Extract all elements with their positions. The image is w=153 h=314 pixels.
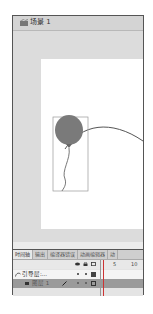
flash-document-window: 场景 1 时间轴 输出 编译器错误 动画编辑器 动	[12, 15, 144, 295]
tab-compiler-errors[interactable]: 编译器错误	[48, 250, 78, 259]
timeline-header: 5 10	[13, 260, 143, 269]
timeline-tabs: 时间轴 输出 编译器错误 动画编辑器 动	[13, 250, 143, 260]
layer-row-normal[interactable]: 图层 1	[13, 279, 143, 288]
lock-dot[interactable]	[85, 273, 87, 275]
tab-output[interactable]: 输出	[33, 250, 48, 259]
tab-timeline[interactable]: 时间轴	[13, 250, 33, 259]
pasteboard[interactable]	[13, 31, 143, 242]
balloon-shape	[55, 115, 83, 145]
lock-dot[interactable]	[85, 282, 87, 284]
visibility-dot[interactable]	[77, 282, 79, 284]
layer-row-guide[interactable]: 引导层:...	[13, 270, 143, 279]
eye-icon[interactable]	[75, 262, 80, 266]
guide-layer-icon	[15, 272, 21, 277]
tab-motion-editor[interactable]: 动画编辑器	[78, 250, 108, 259]
layer-name[interactable]: 图层 1	[32, 280, 49, 287]
layer-name[interactable]: 引导层:...	[22, 271, 47, 278]
pencil-icon	[62, 281, 67, 286]
balloon-string	[62, 148, 69, 191]
visibility-dot[interactable]	[77, 273, 79, 275]
stage-artwork	[41, 59, 143, 229]
layer-icon	[25, 281, 30, 286]
frame-number-5: 5	[113, 261, 116, 267]
stage-canvas[interactable]	[41, 59, 143, 229]
outline-color-swatch[interactable]	[91, 281, 96, 286]
lock-icon[interactable]	[83, 262, 88, 266]
frame-number-10: 10	[131, 261, 137, 267]
tab-more[interactable]: 动	[108, 250, 118, 259]
scene-icon	[20, 19, 28, 26]
outline-color-swatch[interactable]	[91, 272, 96, 277]
scene-label[interactable]: 场景 1	[30, 18, 51, 27]
layers-frames-divider[interactable]	[100, 260, 101, 296]
scene-tab-bar: 场景 1	[13, 16, 143, 31]
playhead[interactable]	[103, 260, 104, 296]
panel-divider[interactable]	[13, 242, 143, 249]
outline-icon[interactable]	[91, 262, 96, 266]
timeline-panel: 时间轴 输出 编译器错误 动画编辑器 动 5 10 引导层:... 图层 1	[13, 249, 143, 296]
